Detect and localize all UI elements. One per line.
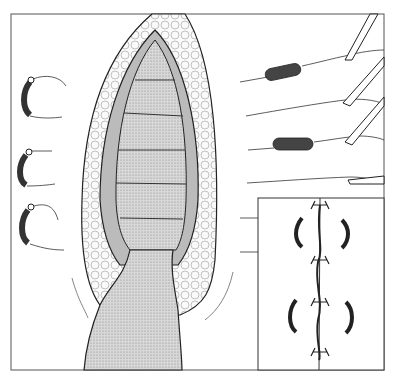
left-suture-2 bbox=[20, 149, 55, 186]
right-suture-1 bbox=[240, 50, 384, 82]
suture-illustration bbox=[0, 0, 395, 378]
inset-closed-wound bbox=[258, 198, 384, 370]
right-suture-5 bbox=[240, 218, 258, 252]
right-suture-2 bbox=[246, 99, 384, 116]
left-suture-3 bbox=[22, 204, 64, 250]
skin-contour-left bbox=[72, 278, 88, 318]
left-suture-1 bbox=[24, 76, 66, 118]
right-suture-3 bbox=[248, 136, 384, 150]
